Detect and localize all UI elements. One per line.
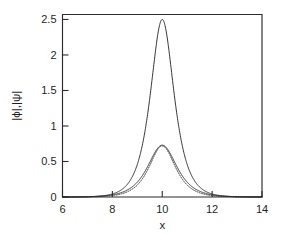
y-tick-label-0: 0 (50, 191, 56, 203)
y-tick-label-2: 2 (50, 49, 56, 61)
chart-figure: 68101214 00.511.522.5 x |ϕ|,|ψ| (0, 0, 281, 234)
x-axis-title: x (159, 219, 165, 231)
x-tick-label-6: 6 (59, 203, 65, 215)
x-tick-label-14: 14 (256, 203, 268, 215)
x-tick-label-8: 8 (109, 203, 115, 215)
y-axis-title: |ϕ|,|ψ| (10, 91, 22, 121)
y-tick-label-1: 1 (50, 120, 56, 132)
y-tick-label-2.5: 2.5 (41, 13, 56, 25)
plot-canvas: 68101214 00.511.522.5 x |ϕ|,|ψ| (0, 0, 281, 234)
x-tick-label-10: 10 (156, 203, 168, 215)
y-tick-label-0.5: 0.5 (41, 155, 56, 167)
figure-background (0, 0, 281, 234)
x-tick-label-12: 12 (206, 203, 218, 215)
y-tick-label-1.5: 1.5 (41, 84, 56, 96)
